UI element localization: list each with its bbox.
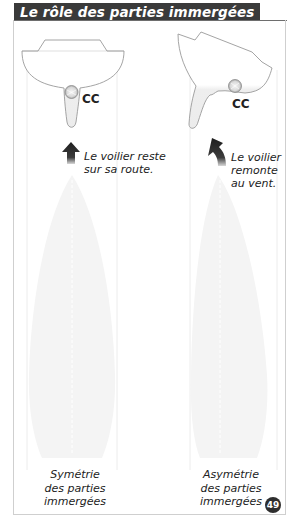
diagram-artwork bbox=[0, 0, 299, 522]
arrow-up-icon bbox=[62, 142, 80, 164]
cc-label-right: CC bbox=[232, 97, 250, 111]
right-bottom-label: Asymétrie des parties immergées bbox=[186, 468, 276, 509]
left-bottom-label: Symétrie des parties immergées bbox=[30, 468, 120, 509]
page-number-badge: 49 bbox=[265, 497, 281, 513]
left-caption: Le voilier reste sur sa route. bbox=[84, 150, 166, 176]
left-hull-section bbox=[22, 40, 124, 127]
right-hull-plan bbox=[191, 175, 268, 458]
arrow-up-left-curved-icon bbox=[208, 138, 226, 166]
left-hull-plan bbox=[29, 175, 115, 458]
center-of-hull-marker-left bbox=[65, 86, 78, 99]
cc-label-left: CC bbox=[82, 92, 100, 106]
right-hull-section bbox=[178, 32, 272, 128]
right-caption: Le voilier remonte au vent. bbox=[231, 151, 281, 190]
